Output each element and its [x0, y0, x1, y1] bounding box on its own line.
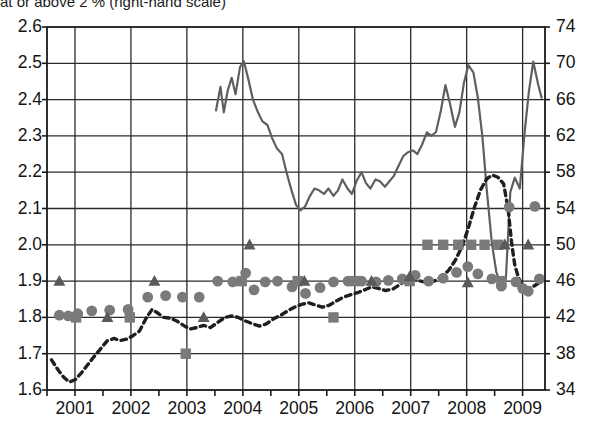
y-axis-right-tick-label: 70 — [556, 54, 598, 72]
marker-square — [453, 240, 463, 250]
marker-circle — [177, 292, 188, 303]
y-axis-left-tick-label: 2.6 — [0, 18, 42, 36]
marker-circle — [328, 276, 339, 287]
marker-square — [328, 312, 338, 322]
series-line — [216, 61, 542, 284]
marker-circle — [272, 276, 283, 287]
marker-triangle — [462, 276, 474, 287]
marker-triangle — [53, 275, 65, 286]
y-axis-right-tick-label: 58 — [556, 163, 598, 181]
y-axis-right-tick-label: 62 — [556, 127, 598, 145]
marker-circle — [86, 305, 97, 316]
marker-square — [496, 276, 506, 286]
marker-square — [350, 276, 360, 286]
marker-square — [479, 240, 489, 250]
marker-square — [125, 312, 135, 322]
marker-circle — [300, 288, 311, 299]
marker-circle — [383, 275, 394, 286]
x-axis-tick-label: 2007 — [381, 400, 441, 418]
marker-circle — [523, 286, 534, 297]
y-axis-left-tick-label: 2.3 — [0, 127, 42, 145]
y-axis-right-tick-label: 66 — [556, 91, 598, 109]
y-axis-right-tick-label: 74 — [556, 18, 598, 36]
marker-circle — [504, 202, 515, 213]
y-axis-right-tick-label: 46 — [556, 272, 598, 290]
marker-circle — [423, 276, 434, 287]
chart-plot-svg — [0, 0, 598, 434]
marker-square — [438, 240, 448, 250]
y-axis-left-tick-label: 2.0 — [0, 236, 42, 254]
y-axis-left-tick-label: 2.1 — [0, 200, 42, 218]
y-axis-right-tick-label: 34 — [556, 381, 598, 399]
marker-circle — [212, 276, 223, 287]
chart-figure: at or above 2 % (right-hand scale) 1.61.… — [0, 0, 598, 434]
x-axis-tick-label: 2002 — [101, 400, 161, 418]
marker-square — [181, 349, 191, 359]
marker-triangle — [244, 239, 256, 250]
y-axis-right-tick-label: 38 — [556, 345, 598, 363]
y-axis-right-tick-label: 50 — [556, 236, 598, 254]
y-axis-right-tick-label: 54 — [556, 200, 598, 218]
x-axis-tick-label: 2003 — [157, 400, 217, 418]
x-axis-tick-label: 2004 — [213, 400, 273, 418]
marker-circle — [160, 290, 171, 301]
marker-circle — [104, 305, 115, 316]
marker-circle — [530, 201, 541, 212]
y-axis-left-tick-label: 1.8 — [0, 308, 42, 326]
marker-circle — [249, 284, 260, 295]
marker-circle — [260, 276, 271, 287]
series-layer — [51, 61, 544, 382]
marker-circle — [194, 292, 205, 303]
x-axis-tick-label: 2008 — [437, 400, 497, 418]
marker-triangle — [198, 311, 210, 322]
marker-circle — [472, 268, 483, 279]
y-axis-left-tick-label: 1.6 — [0, 381, 42, 399]
x-axis-tick-label: 2005 — [269, 400, 329, 418]
y-axis-left-tick-label: 2.5 — [0, 54, 42, 72]
marker-square — [422, 240, 432, 250]
marker-triangle — [148, 275, 160, 286]
marker-square — [237, 276, 247, 286]
marker-circle — [534, 274, 545, 285]
marker-circle — [438, 273, 449, 284]
grid-layer — [47, 27, 545, 390]
marker-triangle — [522, 239, 534, 250]
marker-circle — [462, 261, 473, 272]
y-axis-right-tick-label: 42 — [556, 308, 598, 326]
marker-circle — [315, 282, 326, 293]
x-axis-tick-label: 2009 — [493, 400, 553, 418]
marker-circle — [142, 292, 153, 303]
marker-square — [71, 312, 81, 322]
y-axis-left-tick-label: 2.2 — [0, 163, 42, 181]
marker-circle — [451, 267, 462, 278]
marker-circle — [486, 274, 497, 285]
x-axis-tick-label: 2001 — [45, 400, 105, 418]
y-axis-left-tick-label: 1.7 — [0, 345, 42, 363]
y-axis-left-tick-label: 1.9 — [0, 272, 42, 290]
x-axis-tick-label: 2006 — [325, 400, 385, 418]
marker-square — [466, 240, 476, 250]
y-axis-left-tick-label: 2.4 — [0, 91, 42, 109]
